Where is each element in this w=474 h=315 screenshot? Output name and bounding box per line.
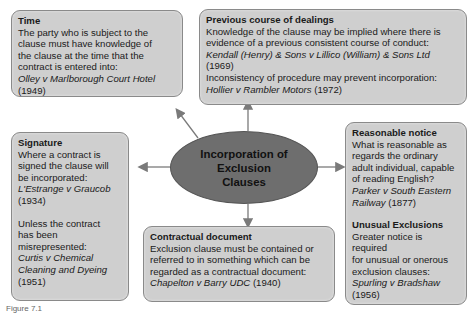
text-line: Where a contract is [18, 149, 122, 161]
box-time: Time The party who is subject to the cla… [11, 10, 183, 97]
case-name: Curtis v Chemical [18, 252, 93, 263]
box-contractual-document: Contractual document Exclusion clause mu… [143, 226, 335, 302]
case-year: (1877) [388, 197, 416, 208]
box-previous-dealings: Previous course of dealings Knowledge of… [199, 9, 467, 105]
text-line: What is reasonable as [352, 139, 460, 151]
center-line: Incorporation of [200, 147, 287, 161]
box-title: Contractual document [150, 231, 328, 243]
case-year: (1969) [206, 60, 460, 72]
text-line: signed the clause will [18, 160, 122, 172]
text-line: evidence of a previous consistent course… [206, 37, 460, 49]
text-line: referred to in something which can be [150, 254, 328, 266]
case-name: Kendall (Henry) & Sons v Lillico (Willia… [206, 49, 430, 60]
center-line: Clauses [200, 175, 287, 189]
case-year: (1949) [18, 85, 176, 97]
case-year: (1940) [253, 277, 281, 288]
case-name: Spurling v Bradshaw [352, 277, 440, 288]
text-line: Inconsistency of procedure may prevent i… [206, 72, 460, 84]
case-name: Olley v Marlborough Court Hotel [18, 73, 155, 84]
case-name: Cleaning and Dyeing [18, 264, 107, 275]
text-line: regarded as a contractual document: [150, 266, 328, 278]
text-line: Unless the contract [18, 218, 122, 230]
case-name: Parker v South Eastern [352, 185, 451, 196]
box-title: Unusual Exclusions [352, 219, 460, 231]
case-year: (1951) [18, 276, 122, 288]
text-line: regards the ordinary [352, 150, 460, 162]
case-year: (1956) [352, 289, 460, 301]
box-title: Previous course of dealings [206, 14, 460, 26]
text-line: Knowledge of the clause may be implied w… [206, 26, 460, 38]
text-line: exclusion clauses: [352, 266, 460, 278]
box-reasonable-notice: Reasonable notice What is reasonable as … [345, 122, 467, 305]
case-name: Hollier v Rambler Motors [206, 84, 312, 95]
text-line: misrepresented: [18, 241, 122, 253]
text-line: be incorporated: [18, 172, 122, 184]
text-line: The party who is subject to the [18, 27, 176, 39]
case-name: Chapelton v Barry UDC [150, 277, 250, 288]
box-title: Reasonable notice [352, 127, 460, 139]
text-line: contract is entered into: [18, 61, 176, 73]
central-topic: Incorporation of Exclusion Clauses [170, 131, 318, 204]
text-line: clause must have knowledge of [18, 38, 176, 50]
text-line: has been [18, 229, 122, 241]
text-line: for unusual or onerous [352, 254, 460, 266]
box-signature: Signature Where a contract is signed the… [11, 132, 129, 301]
text-line: the clause at the time that the [18, 50, 176, 62]
case-year: (1972) [314, 84, 342, 95]
figure-caption: Figure 7.1 [6, 304, 42, 313]
box-title: Time [18, 15, 176, 27]
box-title: Signature [18, 137, 122, 149]
text-line: adult individual, capable [352, 162, 460, 174]
case-year: (1934) [18, 195, 122, 207]
case-name: L'Estrange v Graucob [18, 183, 111, 194]
case-name: Railway [352, 197, 386, 208]
text-line: Greater notice is required [352, 231, 460, 254]
text-line: of reading English? [352, 173, 460, 185]
center-line: Exclusion [200, 161, 287, 175]
text-line: Exclusion clause must be contained or [150, 243, 328, 255]
